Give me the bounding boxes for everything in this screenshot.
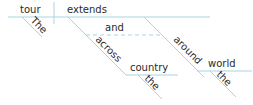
word-conjunction: and (105, 22, 124, 33)
word-verb: extends (67, 4, 107, 15)
word-prep2-object: world (208, 58, 236, 69)
word-prep1-object-modifier: the (143, 73, 162, 92)
word-prep1: across (94, 34, 124, 64)
prep-branch-left (68, 17, 86, 35)
word-prep2-object-modifier: the (215, 69, 234, 88)
word-prep1-object: country (130, 62, 168, 73)
sentence-diagram: tour extends The and across country the … (0, 0, 253, 105)
word-subject: tour (20, 4, 41, 15)
